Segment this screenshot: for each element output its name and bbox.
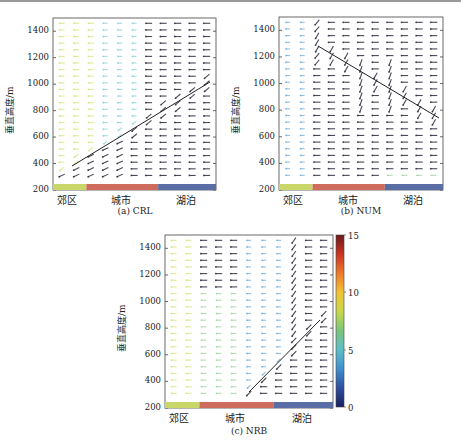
- colorbar: [0, 0, 461, 448]
